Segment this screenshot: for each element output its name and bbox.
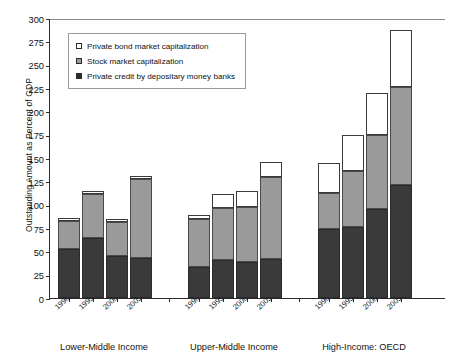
y-axis-tick: 50 bbox=[46, 252, 50, 253]
y-axis-tick: 225 bbox=[46, 89, 50, 90]
y-axis-tick: 100 bbox=[46, 206, 50, 207]
bar-segment-bond bbox=[260, 162, 282, 177]
x-axis-group-tick bbox=[299, 298, 300, 302]
bar-segment-credit bbox=[390, 185, 412, 298]
y-axis-tick-label: 150 bbox=[12, 155, 44, 165]
bar-segment-stock bbox=[188, 219, 210, 268]
bar-segment-credit bbox=[212, 260, 234, 298]
bar-segment-stock bbox=[260, 177, 282, 259]
y-axis-tick: 250 bbox=[46, 66, 50, 67]
legend-label: Private credit by depositary money banks bbox=[87, 72, 235, 81]
bar-segment-stock bbox=[58, 221, 80, 249]
y-axis-tick-label: 0 bbox=[12, 295, 44, 305]
bar-segment-credit bbox=[236, 262, 258, 298]
chart-legend: Private bond market capitalizationStock … bbox=[68, 33, 246, 89]
y-axis-tick: 150 bbox=[46, 159, 50, 160]
y-axis-tick: 25 bbox=[46, 276, 50, 277]
bar-segment-credit bbox=[188, 267, 210, 298]
bar-segment-bond bbox=[212, 194, 234, 208]
bar-segment-credit bbox=[260, 259, 282, 298]
bar-segment-stock bbox=[366, 135, 388, 210]
y-axis-tick-label: 225 bbox=[12, 85, 44, 95]
y-axis-tick-label: 175 bbox=[12, 131, 44, 141]
y-axis-tick-label: 250 bbox=[12, 61, 44, 71]
y-axis-tick-label: 125 bbox=[12, 178, 44, 188]
bar-segment-credit bbox=[342, 227, 364, 298]
legend-item: Private credit by depositary money banks bbox=[76, 69, 238, 83]
group-label: High-Income: OECD bbox=[284, 342, 444, 352]
y-axis-tick: 75 bbox=[46, 229, 50, 230]
bar-segment-bond bbox=[342, 135, 364, 171]
y-axis-tick: 300 bbox=[46, 19, 50, 20]
bar-segment-credit bbox=[130, 258, 152, 298]
y-axis-tick: 175 bbox=[46, 136, 50, 137]
bar-segment-stock bbox=[390, 87, 412, 185]
y-axis-tick: 275 bbox=[46, 42, 50, 43]
bar-segment-stock bbox=[106, 222, 128, 256]
y-axis-tick-label: 75 bbox=[12, 225, 44, 235]
y-axis-tick-label: 275 bbox=[12, 38, 44, 48]
bar-segment-credit bbox=[366, 209, 388, 298]
plot-top-rule bbox=[50, 19, 445, 20]
bar-segment-stock bbox=[130, 179, 152, 258]
bar-segment-bond bbox=[236, 191, 258, 208]
y-axis-tick: 0 bbox=[46, 299, 50, 300]
chart-container: Outstanding Amount as Percent of GDP 025… bbox=[0, 0, 452, 364]
bar-segment-stock bbox=[342, 171, 364, 227]
y-axis-tick-label: 50 bbox=[12, 248, 44, 258]
y-axis-tick: 125 bbox=[46, 182, 50, 183]
y-axis-tick-label: 200 bbox=[12, 108, 44, 118]
bar-segment-bond bbox=[318, 163, 340, 194]
x-axis-group-tick bbox=[169, 298, 170, 302]
y-axis-tick-label: 300 bbox=[12, 15, 44, 25]
legend-label: Private bond market capitalization bbox=[87, 42, 208, 51]
bar-segment-credit bbox=[58, 249, 80, 298]
bar-segment-bond bbox=[390, 30, 412, 87]
bar-segment-stock bbox=[318, 193, 340, 228]
y-axis-tick-label: 100 bbox=[12, 201, 44, 211]
bar-segment-credit bbox=[106, 256, 128, 298]
legend-swatch-stock-icon bbox=[76, 58, 82, 64]
bar-segment-bond bbox=[366, 93, 388, 135]
bar-segment-stock bbox=[212, 208, 234, 259]
bar-segment-stock bbox=[82, 194, 104, 238]
bar-segment-credit bbox=[318, 229, 340, 298]
legend-swatch-credit-icon bbox=[76, 73, 82, 79]
y-axis-tick: 200 bbox=[46, 112, 50, 113]
y-axis-tick-label: 25 bbox=[12, 271, 44, 281]
bar-segment-credit bbox=[82, 238, 104, 298]
legend-item: Private bond market capitalization bbox=[76, 39, 238, 53]
legend-item: Stock market capitalization bbox=[76, 54, 238, 68]
legend-label: Stock market capitalization bbox=[87, 57, 183, 66]
legend-swatch-bond-icon bbox=[76, 43, 82, 49]
bar-segment-stock bbox=[236, 207, 258, 261]
